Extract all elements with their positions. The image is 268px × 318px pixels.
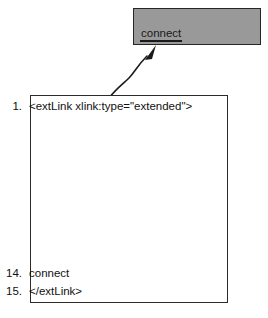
- line-number: 15.: [0, 283, 26, 300]
- code-line-row: 15. </extLink>: [0, 283, 268, 300]
- code-line-row: 14. connect: [0, 265, 268, 282]
- code-line-text: connect: [26, 265, 69, 282]
- code-line-text: <extLink xlink:type="extended">: [26, 98, 192, 115]
- code-line-text: </extLink>: [26, 283, 82, 300]
- line-number: 14.: [0, 265, 26, 282]
- line-number: 1.: [0, 98, 26, 115]
- code-line-row: 1. <extLink xlink:type="extended">: [0, 98, 268, 115]
- figure-container: connect 1. <extLink xlink:type="extended…: [0, 0, 268, 318]
